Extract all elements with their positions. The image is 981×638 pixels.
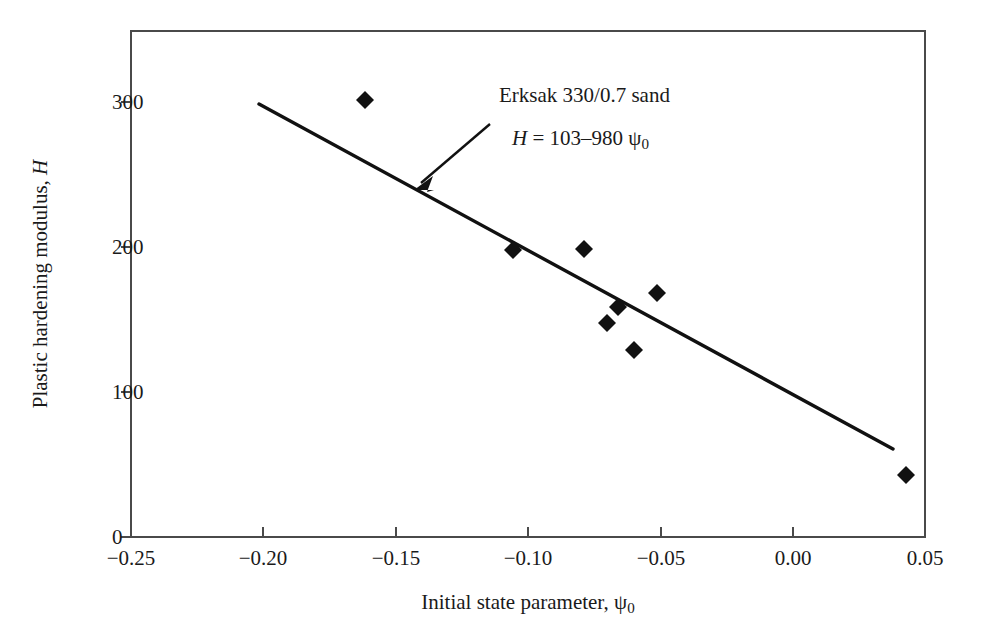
data-point [625,341,643,359]
x-axis-ticks [131,527,925,537]
annotation-equation-subscript: 0 [641,136,649,152]
data-point [356,91,374,109]
annotation-equation-lhs: H [512,126,527,150]
xtick-label-2: −0.15 [372,548,421,569]
plot-canvas [0,0,981,638]
annotation-equation-rhs: = 103–980 ψ [532,126,641,150]
data-point [575,240,593,258]
y-axis-ticks [121,102,131,537]
xtick-label-6: 0.05 [907,548,944,569]
data-point [609,298,627,316]
x-axis-title-subscript: 0 [627,600,635,616]
x-axis-title-symbol: ψ [614,590,627,614]
annotation-equation: H = 103–980 ψ0 [512,128,649,152]
y-axis-title-symbol: H [28,160,52,175]
annotation-title: Erksak 330/0.7 sand [499,85,670,106]
xtick-label-1: −0.20 [239,548,288,569]
chart-figure: −0.25 −0.20 −0.15 −0.10 −0.05 0.00 0.05 … [0,0,981,638]
data-point [897,466,915,484]
y-axis-title: Plastic hardening modulus, H [30,160,51,408]
data-point [598,314,616,332]
xtick-label-3: −0.10 [504,548,553,569]
data-point [504,241,522,259]
fit-line [259,104,893,449]
xtick-label-0: −0.25 [107,548,156,569]
annotation-arrow [414,124,490,192]
xtick-label-4: −0.05 [637,548,686,569]
data-point [648,284,666,302]
x-axis-title: Initial state parameter, ψ0 [421,592,634,616]
y-axis-title-text: Plastic hardening modulus, [28,180,52,408]
xtick-label-5: 0.00 [775,548,812,569]
x-axis-title-text: Initial state parameter, [421,590,608,614]
